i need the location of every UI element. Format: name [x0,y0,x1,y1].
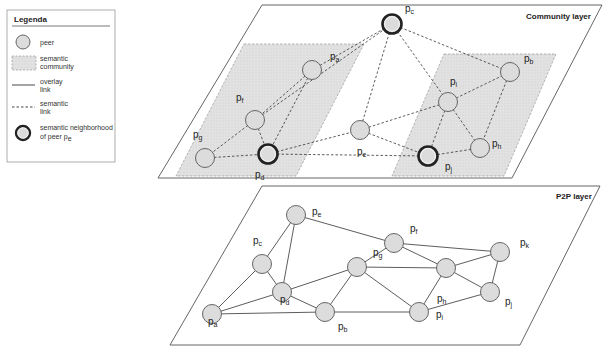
legend-community-icon [12,56,36,70]
legend-overlay-label-2: link [40,86,51,93]
legend-neighborhood-label-1: semantic neighborhood [40,124,113,132]
peer-circle-icon [501,63,520,82]
peer-circle-icon [481,283,500,302]
peer-circle-icon [316,303,335,322]
peer-circle-icon [246,111,265,130]
peer-circle-icon [383,15,402,34]
legend: Legenda peer semantic community overlay … [7,10,115,162]
peer-circle-icon [259,145,278,164]
legend-neighborhood-icon [16,126,30,140]
peer-circle-icon [196,149,215,168]
peer-circle-icon [437,259,456,278]
peer-circle-icon [385,234,404,253]
community-layer-title: Community layer [526,12,591,21]
p2p-layer-title: P2P layer [556,192,592,201]
peer-circle-icon [491,243,510,262]
peer-circle-icon [419,147,438,166]
peer-circle-icon [348,258,367,277]
legend-semantic-label-2: link [40,108,51,115]
peer-circle-icon [439,93,458,112]
legend-peer-label: peer [40,39,55,47]
peer-circle-icon [303,61,322,80]
legend-overlay-label-1: overlay [40,78,63,86]
two-layer-network-diagram: Legenda peer semantic community overlay … [0,0,611,347]
peer-circle-icon [287,206,306,225]
community-layer: Community layer papfpgpdpcpepipbphpj [158,3,602,181]
legend-title: Legenda [14,15,47,24]
legend-community-label-2: community [40,63,74,71]
legend-peer-icon [16,35,30,49]
legend-community-label-1: semantic [40,55,69,62]
p2p-layer: P2P layer pcpepdpapbpgpfphpkpipj [170,186,600,345]
peer-circle-icon [351,121,370,140]
peer-circle-icon [410,303,429,322]
legend-semantic-label-1: semantic [40,100,69,107]
peer-circle-icon [471,139,490,158]
peer-circle-icon [253,255,272,274]
p2p-layer-plane [170,186,600,345]
